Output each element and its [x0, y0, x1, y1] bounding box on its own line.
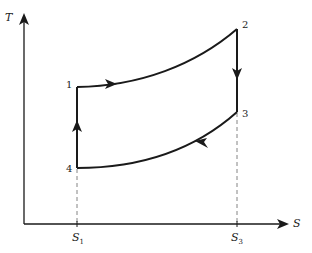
ts-diagram: T S 1 2 3 4 S1 S3	[0, 0, 312, 253]
y-axis-label: T	[5, 12, 12, 23]
tick-label-s3: S3	[231, 232, 243, 246]
s3-sub: 3	[239, 238, 243, 246]
s1-main: S	[72, 231, 80, 244]
point-label-2: 2	[242, 20, 248, 30]
tick-label-s1: S1	[72, 232, 84, 246]
x-axis-label: S	[293, 218, 301, 229]
s1-sub: 1	[80, 238, 84, 246]
point-label-4: 4	[66, 164, 72, 174]
point-label-3: 3	[242, 109, 248, 119]
process-1-2	[77, 29, 237, 87]
diagram-canvas	[0, 0, 312, 253]
process-3-4	[77, 112, 237, 168]
point-label-1: 1	[66, 80, 72, 90]
s3-main: S	[231, 231, 239, 244]
